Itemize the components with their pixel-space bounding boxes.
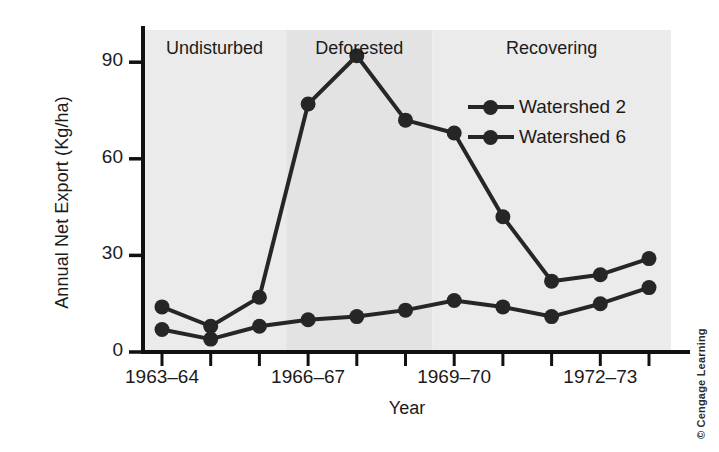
legend-label: Watershed 2 (519, 96, 626, 118)
y-tick-label-60: 60 (81, 146, 123, 168)
legend-item-watershed-2[interactable]: Watershed 2 (468, 92, 626, 122)
data-point (203, 319, 218, 334)
data-point (252, 290, 267, 305)
data-point (447, 293, 462, 308)
data-point (349, 309, 364, 324)
y-tick-label-0: 0 (81, 339, 123, 361)
data-point (593, 267, 608, 282)
data-point (495, 209, 510, 224)
data-point (642, 280, 657, 295)
x-tick-label-1963–64: 1963–64 (97, 366, 227, 388)
copyright-notice: © Cengage Learning (695, 269, 707, 439)
data-point (155, 299, 170, 314)
data-point (398, 113, 413, 128)
data-point (544, 309, 559, 324)
data-point (203, 332, 218, 347)
chart-figure: Annual Net Export (Kg/ha) 0306090 1963–6… (0, 0, 719, 452)
x-tick-label-1972–73: 1972–73 (535, 366, 665, 388)
chart-legend: Watershed 2Watershed 6 (468, 92, 626, 152)
legend-dot (483, 130, 498, 145)
legend-label: Watershed 6 (519, 126, 626, 148)
y-tick-label-30: 30 (81, 242, 123, 264)
data-point (642, 251, 657, 266)
legend-item-watershed-6[interactable]: Watershed 6 (468, 122, 626, 152)
band-label-deforested: Deforested (259, 38, 459, 59)
band-deforested (286, 30, 432, 352)
data-point (252, 319, 267, 334)
data-point (398, 303, 413, 318)
y-axis-title: Annual Net Export (Kg/ha) (52, 53, 73, 353)
x-axis-title: Year (143, 398, 671, 419)
data-point (495, 299, 510, 314)
x-tick-label-1966–67: 1966–67 (243, 366, 373, 388)
data-point (544, 274, 559, 289)
data-point (301, 97, 316, 112)
data-point (593, 296, 608, 311)
data-point (301, 312, 316, 327)
x-tick-label-1969–70: 1969–70 (389, 366, 519, 388)
legend-marker-icon (468, 129, 514, 145)
data-point (447, 126, 462, 141)
legend-dot (483, 100, 498, 115)
data-point (155, 322, 170, 337)
band-label-recovering: Recovering (452, 38, 652, 59)
legend-marker-icon (468, 99, 514, 115)
